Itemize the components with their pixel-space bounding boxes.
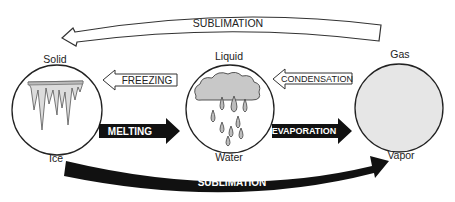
freezing-label: FREEZING [122,75,173,86]
liquid-state: Liquid Water [186,50,274,163]
bottom-sublimation-label: SUBLIMATION [198,177,267,188]
evaporation-label: EVAPORATION [272,126,337,136]
gas-label: Gas [390,48,409,60]
condensation-arrow: CONDENSATION [273,69,353,89]
water-label: Water [215,151,243,163]
melting-arrow: MELTING [99,118,180,144]
solid-state: Solid Ice [12,53,102,164]
melting-label: MELTING [108,126,152,137]
solid-label: Solid [43,53,67,65]
vapor-label: Vapor [387,149,415,161]
evaporation-arrow: EVAPORATION [272,118,352,144]
top-sublimation-arrow: SUBLIMATION [62,17,381,46]
ice-label: Ice [49,152,63,164]
liquid-label: Liquid [215,50,243,62]
condensation-label: CONDENSATION [281,74,353,84]
freezing-arrow: FREEZING [103,70,177,90]
gas-state: Gas Vapor [355,48,443,161]
top-sublimation-label: SUBLIMATION [193,17,263,29]
states-of-matter-diagram: SUBLIMATION Solid Ice FREEZING MELTING L… [0,0,455,202]
